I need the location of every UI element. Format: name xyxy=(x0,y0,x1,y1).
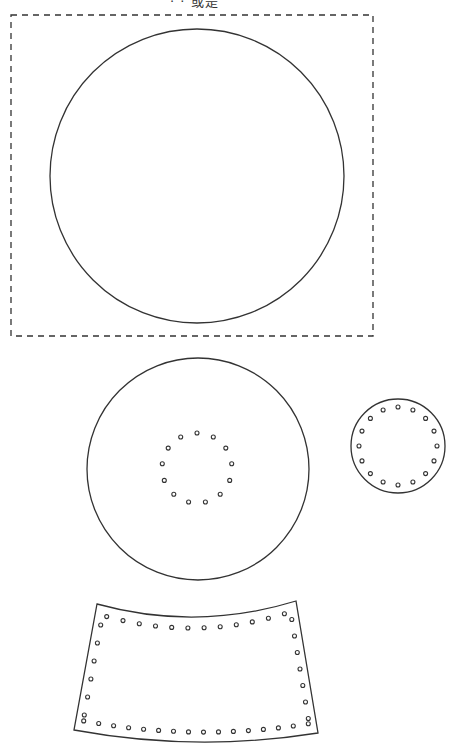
stitch-hole xyxy=(179,435,183,439)
stitch-hole xyxy=(92,659,96,663)
stitch-hole xyxy=(411,408,415,412)
stitch-hole xyxy=(381,408,385,412)
stitch-hole xyxy=(142,727,146,731)
stitch-hole xyxy=(186,626,190,630)
dashed-boundary xyxy=(11,15,373,336)
stitch-hole xyxy=(187,730,191,734)
stitch-hole xyxy=(261,727,265,731)
stitch-hole xyxy=(301,684,305,688)
stitch-hole xyxy=(202,730,206,734)
stitch-hole xyxy=(172,492,176,496)
stitch-hole xyxy=(166,446,170,450)
stitch-hole xyxy=(218,625,222,629)
stitch-hole xyxy=(276,726,280,730)
stitch-hole xyxy=(228,478,232,482)
stitch-hole xyxy=(195,431,199,435)
stitch-hole xyxy=(234,623,238,627)
stitch-hole xyxy=(396,483,400,487)
stitch-hole xyxy=(432,429,436,433)
stitch-hole xyxy=(202,626,206,630)
stitch-hole xyxy=(217,730,221,734)
medium-circle-stitch-holes xyxy=(160,431,233,504)
stitch-hole xyxy=(368,416,372,420)
stitch-hole xyxy=(304,700,308,704)
stitch-hole xyxy=(306,722,310,726)
stitch-hole xyxy=(97,722,101,726)
stitch-hole xyxy=(295,651,299,655)
stitch-hole xyxy=(121,619,125,623)
stitch-hole xyxy=(162,478,166,482)
stitch-hole xyxy=(112,724,116,728)
stitch-hole xyxy=(160,462,164,466)
stitch-hole xyxy=(154,624,158,628)
stitch-hole xyxy=(360,459,364,463)
stitch-hole xyxy=(360,429,364,433)
stitch-hole xyxy=(231,729,235,733)
stitch-hole xyxy=(172,729,176,733)
stitch-hole xyxy=(86,695,90,699)
stitch-hole xyxy=(246,729,250,733)
large-circle-piece xyxy=(50,29,344,323)
stitch-hole xyxy=(203,500,207,504)
stitch-hole xyxy=(89,677,93,681)
stitch-hole xyxy=(266,616,270,620)
small-circle-stitch-holes xyxy=(357,405,439,487)
stitch-hole xyxy=(137,622,141,626)
stitch-hole xyxy=(282,612,286,616)
medium-circle-piece xyxy=(87,358,309,580)
stitch-hole xyxy=(170,625,174,629)
stitch-hole xyxy=(381,480,385,484)
stitch-hole xyxy=(82,719,86,723)
stitch-hole xyxy=(127,726,131,730)
stitch-hole xyxy=(250,620,254,624)
curved-band-stitch-holes xyxy=(82,612,311,734)
stitch-hole xyxy=(211,435,215,439)
stitch-hole xyxy=(230,462,234,466)
stitch-hole xyxy=(411,480,415,484)
stitch-hole xyxy=(306,717,310,721)
curved-band-piece xyxy=(74,601,318,742)
stitch-hole xyxy=(157,728,161,732)
stitch-hole xyxy=(424,472,428,476)
stitch-hole xyxy=(432,459,436,463)
stitch-hole xyxy=(82,713,86,717)
stitch-hole xyxy=(224,446,228,450)
small-circle-piece xyxy=(351,399,445,493)
stitch-hole xyxy=(99,623,103,627)
stitch-hole xyxy=(293,634,297,638)
stitch-hole xyxy=(298,667,302,671)
stitch-hole xyxy=(396,405,400,409)
stitch-hole xyxy=(435,444,439,448)
stitch-hole xyxy=(218,492,222,496)
stitch-hole xyxy=(357,444,361,448)
stitch-hole xyxy=(424,416,428,420)
stitch-hole xyxy=(105,615,109,619)
stitch-hole xyxy=(290,618,294,622)
stitch-hole xyxy=(368,472,372,476)
pattern-canvas xyxy=(0,0,460,743)
stitch-hole xyxy=(291,724,295,728)
stitch-hole xyxy=(187,500,191,504)
stitch-hole xyxy=(95,641,99,645)
